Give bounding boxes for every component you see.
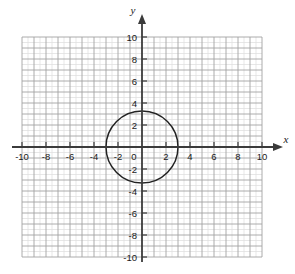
x-tick-label: -6 [66,151,74,162]
origin-label: 0 [131,151,136,162]
x-tick-label: -10 [15,151,29,162]
x-tick-label: 10 [257,151,268,162]
y-axis [138,14,146,262]
y-tick-label: 10 [126,32,137,43]
x-tick-label: 6 [211,151,216,162]
y-axis-arrow-icon [138,14,146,24]
y-axis-tick-labels-positive: 10 8 6 4 2 [126,32,137,131]
x-tick-label: -8 [42,151,50,162]
x-tick-label: 2 [163,151,168,162]
x-axis-name-label: x [283,133,289,145]
x-tick-label: -4 [90,151,98,162]
y-tick-label: -8 [129,230,137,241]
x-axis-arrow-icon [273,143,283,151]
y-tick-label: 4 [132,98,137,109]
graph-canvas: -10 -8 -6 -4 -2 0 2 4 6 8 10 10 8 6 4 2 … [0,0,295,274]
y-tick-label: -2 [129,164,137,175]
y-axis-name-label: y [130,4,136,16]
y-tick-label: 6 [132,76,137,87]
x-axis [12,143,283,151]
y-tick-label: -6 [129,208,137,219]
y-tick-label: -4 [129,186,137,197]
x-tick-label: 4 [187,151,192,162]
y-tick-label: -10 [123,252,137,263]
coordinate-plane-figure: -10 -8 -6 -4 -2 0 2 4 6 8 10 10 8 6 4 2 … [0,0,295,274]
y-tick-label: 8 [132,54,137,65]
x-tick-label: 8 [235,151,240,162]
y-tick-label: 2 [132,120,137,131]
x-tick-label: -2 [114,151,122,162]
